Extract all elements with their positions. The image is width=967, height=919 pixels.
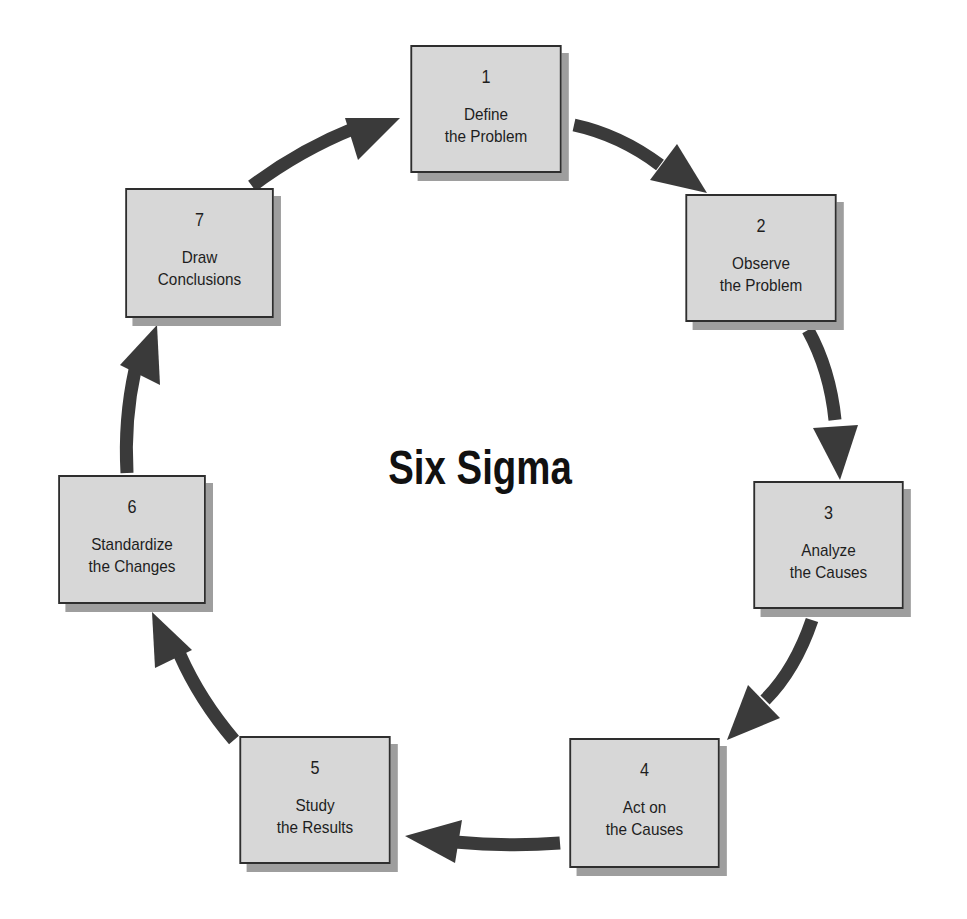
- step-box-1: 1 Define the Problem: [410, 45, 561, 173]
- step-number: 5: [241, 758, 389, 779]
- arrowhead-7-to-1: [345, 118, 400, 160]
- arrow-4-to-5: [455, 842, 560, 845]
- step-box-7: 7 Draw Conclusions: [125, 188, 274, 318]
- step-box-4: 4 Act on the Causes: [569, 738, 719, 868]
- step-number: 4: [571, 760, 718, 781]
- arrow-7-to-1: [252, 128, 355, 186]
- arrow-1-to-2: [574, 125, 660, 165]
- step-box-2: 2 Observe the Problem: [685, 194, 836, 322]
- step-label-line2: the Causes: [571, 819, 718, 841]
- step-box-5: 5 Study the Results: [239, 736, 390, 864]
- step-label-line1: Draw: [127, 247, 272, 269]
- step-label-line2: the Results: [241, 817, 389, 839]
- step-label-line2: the Changes: [60, 556, 204, 578]
- arrowhead-4-to-5: [405, 820, 462, 863]
- step-label-line1: Analyze: [755, 540, 902, 562]
- step-number: 1: [412, 67, 560, 88]
- step-label-line1: Act on: [571, 797, 718, 819]
- step-box-3: 3 Analyze the Causes: [753, 481, 903, 609]
- step-label-line1: Standardize: [60, 534, 204, 556]
- arrow-3-to-4: [765, 620, 812, 700]
- step-label-line2: the Causes: [755, 562, 902, 584]
- step-number: 2: [687, 216, 835, 237]
- step-number: 6: [60, 497, 204, 518]
- step-number: 3: [755, 503, 902, 524]
- diagram-title: Six Sigma: [368, 440, 592, 495]
- step-label-line1: Define: [412, 104, 560, 126]
- step-number: 7: [127, 210, 272, 231]
- step-label-line2: the Problem: [687, 275, 835, 297]
- step-label-line1: Study: [241, 795, 389, 817]
- arrowhead-2-to-3: [813, 425, 858, 480]
- arrowhead-1-to-2: [650, 144, 707, 193]
- step-label-line2: Conclusions: [127, 269, 272, 291]
- step-label-line1: Observe: [687, 253, 835, 275]
- arrow-6-to-7: [126, 370, 135, 473]
- arrow-2-to-3: [808, 330, 835, 420]
- step-box-6: 6 Standardize the Changes: [58, 475, 206, 604]
- step-label-line2: the Problem: [412, 126, 560, 148]
- arrow-5-to-6: [180, 655, 234, 740]
